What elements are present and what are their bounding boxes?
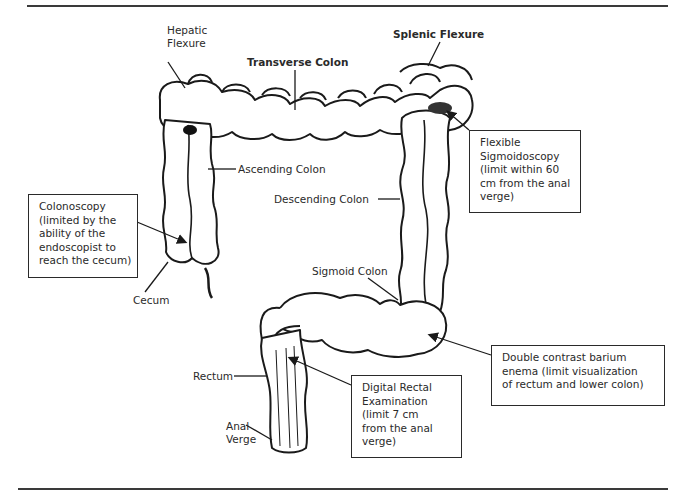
callout-line: reach the cecum)	[39, 254, 131, 268]
callout-line: ability of the	[39, 227, 131, 241]
label-anal-verge: Anal Verge	[226, 420, 256, 446]
hepatic-shading	[183, 125, 197, 135]
label-descending-colon: Descending Colon	[274, 193, 369, 206]
callout-colonoscopy: Colonoscopy (limited by the ability of t…	[28, 194, 138, 278]
rectum-shape	[261, 330, 307, 453]
callout-line: endoscopist to	[39, 241, 131, 255]
callout-line: Sigmoidoscopy	[480, 150, 574, 164]
callout-line: Double contrast barium	[502, 351, 658, 365]
hepatic-line-2: Flexure	[167, 37, 207, 50]
label-splenic-flexure: Splenic Flexure	[393, 28, 484, 41]
callout-line: (limit within 60	[480, 163, 574, 177]
label-ascending-colon: Ascending Colon	[238, 163, 326, 176]
label-cecum: Cecum	[133, 294, 169, 307]
label-transverse-colon: Transverse Colon	[247, 56, 348, 69]
callout-line: verge)	[480, 190, 574, 204]
callout-line: cm from the anal	[480, 177, 574, 191]
callout-line: (limit 7 cm	[362, 408, 455, 422]
callout-line: Colonoscopy	[39, 200, 131, 214]
label-hepatic-flexure: Hepatic Flexure	[167, 24, 207, 50]
callout-line: enema (limit visualization	[502, 365, 658, 379]
callout-digital-rectal: Digital Rectal Examination (limit 7 cm f…	[351, 375, 462, 458]
hepatic-line-1: Hepatic	[167, 24, 207, 37]
colon-diagram: Hepatic Flexure Transverse Colon Splenic…	[0, 0, 690, 491]
label-rectum: Rectum	[193, 370, 233, 383]
callout-line: from the anal	[362, 422, 455, 436]
anal-line-2: Verge	[226, 433, 256, 446]
ascending-colon-shape	[163, 120, 219, 298]
descending-colon-shape	[399, 111, 450, 313]
anal-line-1: Anal	[226, 420, 256, 433]
callout-double-contrast: Double contrast barium enema (limit visu…	[491, 345, 665, 406]
callout-line: of rectum and lower colon)	[502, 378, 658, 392]
label-sigmoid-colon: Sigmoid Colon	[312, 265, 388, 278]
callout-line: verge)	[362, 435, 455, 449]
callout-flexible-sigmoidoscopy: Flexible Sigmoidoscopy (limit within 60 …	[469, 130, 581, 213]
callout-line: Flexible	[480, 136, 574, 150]
callout-line: Examination	[362, 395, 455, 409]
callout-line: (limited by the	[39, 214, 131, 228]
callout-line: Digital Rectal	[362, 381, 455, 395]
